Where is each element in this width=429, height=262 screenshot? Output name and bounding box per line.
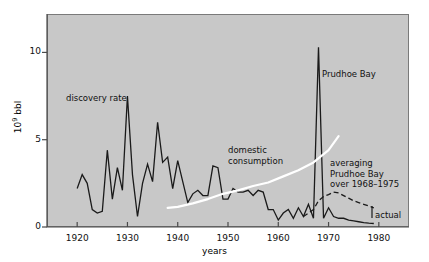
x-tick-label: 1970 bbox=[315, 233, 343, 243]
y-axis-label-exponent: 9 bbox=[11, 118, 19, 122]
actual-label-line-0: actual bbox=[375, 210, 401, 221]
oil-discovery-rate-chart: 109 bbl years 19201930194019501960197019… bbox=[0, 0, 429, 262]
chart-canvas bbox=[0, 0, 429, 262]
discovery-rate-label: discovery rate bbox=[66, 93, 127, 104]
domestic-consumption-label: domesticconsumption bbox=[228, 145, 283, 166]
averaging-label: averagingPrudhoe Bayover 1968–1975 bbox=[330, 158, 399, 190]
prudhoe-bay-label: Prudhoe Bay bbox=[322, 69, 376, 80]
domestic-consumption-label-line-1: consumption bbox=[228, 156, 283, 167]
x-tick-label: 1920 bbox=[63, 233, 91, 243]
y-tick-label: 5 bbox=[16, 134, 41, 144]
axes-group bbox=[42, 14, 409, 227]
x-tick-label: 1980 bbox=[365, 233, 393, 243]
averaging-label-line-2: over 1968–1975 bbox=[330, 179, 399, 190]
averaging-label-line-0: averaging bbox=[330, 158, 399, 169]
y-tick-label: 0 bbox=[16, 221, 41, 231]
averaging-label-line-1: Prudhoe Bay bbox=[330, 169, 399, 180]
y-axis-label-mantissa: 10 bbox=[13, 122, 23, 133]
y-tick-label: 10 bbox=[16, 46, 41, 56]
x-axis-label: years bbox=[0, 246, 429, 256]
y-axis-label-unit: bbl bbox=[13, 101, 23, 118]
prudhoe-bay-label-line-0: Prudhoe Bay bbox=[322, 69, 376, 80]
x-tick-label: 1940 bbox=[164, 233, 192, 243]
x-tick-label: 1930 bbox=[113, 233, 141, 243]
domestic-consumption-label-line-0: domestic bbox=[228, 145, 283, 156]
x-tick-label: 1950 bbox=[214, 233, 242, 243]
x-tick-label: 1960 bbox=[264, 233, 292, 243]
actual-label: actual bbox=[375, 210, 401, 221]
discovery-rate-label-line-0: discovery rate bbox=[66, 93, 127, 104]
